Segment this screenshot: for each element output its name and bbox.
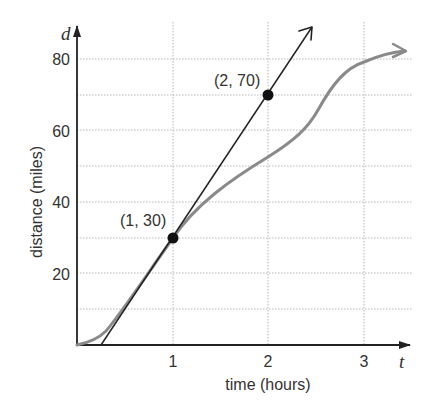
x-axis-title: time (hours) (225, 376, 310, 393)
point-label-1: (1, 30) (120, 212, 166, 229)
point-label-2: (2, 70) (214, 72, 260, 89)
y-tick-80: 80 (52, 51, 70, 68)
x-axis-variable: t (399, 351, 405, 372)
secant-line (101, 27, 312, 345)
x-tick-1: 1 (169, 353, 178, 370)
x-tick-2: 2 (264, 353, 273, 370)
point-2-70 (263, 90, 274, 101)
chart: (1, 30) (2, 70) 80 60 40 20 1 2 3 d t ti… (0, 0, 432, 412)
y-axis-title: distance (miles) (28, 146, 45, 258)
y-tick-20: 20 (52, 266, 70, 283)
point-1-30 (168, 233, 179, 244)
y-axis-variable: d (61, 23, 71, 44)
y-tick-40: 40 (52, 194, 70, 211)
gridlines (77, 22, 412, 345)
y-tick-60: 60 (52, 123, 70, 140)
x-tick-3: 3 (360, 353, 369, 370)
